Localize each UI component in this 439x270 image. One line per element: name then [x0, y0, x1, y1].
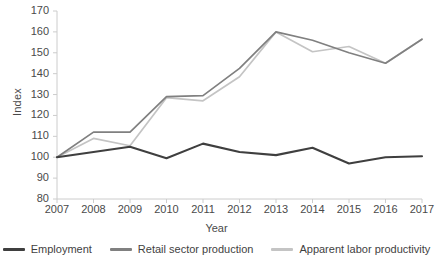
y-tick-label: 140 — [15, 67, 49, 79]
x-tick-label: 2014 — [293, 203, 333, 215]
legend-label: Employment — [31, 243, 92, 255]
x-tick-label: 2013 — [256, 203, 296, 215]
legend-label: Retail sector production — [138, 243, 254, 255]
y-tick-marks — [53, 11, 57, 199]
legend-item[interactable]: Employment — [3, 243, 92, 255]
y-tick-label: 110 — [15, 129, 49, 141]
y-tick-label: 150 — [15, 46, 49, 58]
y-tick-label: 90 — [15, 171, 49, 183]
legend-line-swatch — [3, 248, 25, 251]
x-axis-title: Year — [0, 222, 433, 234]
y-tick-label: 160 — [15, 25, 49, 37]
legend-line-swatch — [110, 248, 132, 251]
legend-label: Apparent labor productivity — [299, 243, 430, 255]
y-tick-label: 170 — [15, 4, 49, 16]
series-lines — [57, 32, 422, 164]
x-tick-label: 2009 — [110, 203, 150, 215]
x-tick-label: 2017 — [402, 203, 439, 215]
legend-item[interactable]: Retail sector production — [110, 243, 254, 255]
chart-legend: EmploymentRetail sector productionAppare… — [0, 243, 433, 255]
y-tick-label: 120 — [15, 108, 49, 120]
x-tick-label: 2015 — [329, 203, 369, 215]
legend-line-swatch — [271, 248, 293, 251]
legend-item[interactable]: Apparent labor productivity — [271, 243, 430, 255]
y-tick-label: 100 — [15, 150, 49, 162]
y-tick-label: 130 — [15, 88, 49, 100]
x-tick-label: 2011 — [183, 203, 223, 215]
x-tick-label: 2012 — [220, 203, 260, 215]
series-line — [57, 32, 422, 157]
axis-lines — [57, 11, 422, 199]
series-line — [57, 32, 422, 157]
x-tick-label: 2016 — [366, 203, 406, 215]
x-tick-label: 2010 — [147, 203, 187, 215]
series-line — [57, 144, 422, 164]
x-tick-label: 2007 — [37, 203, 77, 215]
x-tick-label: 2008 — [74, 203, 114, 215]
